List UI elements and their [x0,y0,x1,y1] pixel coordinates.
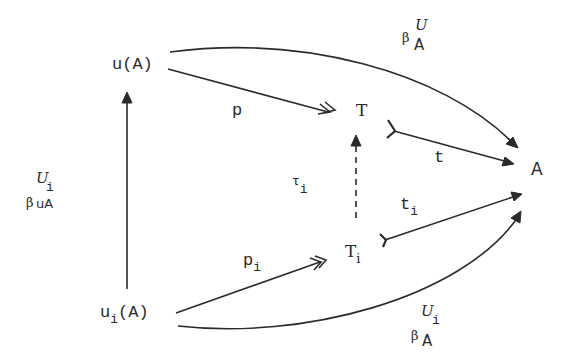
double-arrowhead-icon [318,102,335,114]
arrowhead-icon [122,92,132,103]
label-t: t [434,149,444,166]
label-beta-ui-A: β U i A [411,326,419,343]
label-tau-i: τi [292,174,308,191]
diagram-arrows [0,0,573,360]
label-tau-i-sub: i [300,182,308,197]
node-T-i-base: T [345,241,356,261]
label-beta-left: β U i uA [26,193,34,210]
node-T-i: Ti [345,243,361,260]
label-t-i: ti [400,196,418,213]
node-u-A: u(A) [112,56,153,73]
tail-icon [380,234,386,247]
label-p-i-base: p [243,251,253,270]
label-beta-left-base: β [26,195,34,210]
label-p-i: pi [243,252,261,269]
node-ui-A-base: u [100,303,110,322]
node-T-i-sub: i [356,251,360,266]
node-ui-A: ui(A) [100,304,149,321]
label-beta-left-supsub: i [46,181,54,194]
label-tau-i-base: τ [292,174,300,189]
label-beta-u-A: β U A [402,28,410,45]
arrowhead-icon [351,135,361,146]
commutative-diagram: u(A) ui(A) T Ti A p pi t ti τi β U A β U… [0,0,573,360]
label-beta-u-A-sup: U [415,18,428,33]
label-p: p [232,102,242,119]
arrow-beta-u-A [170,48,513,143]
label-t-i-sub: i [410,204,418,219]
arrowhead-icon [511,192,522,201]
label-beta-ui-A-sub: A [422,334,432,349]
tail-icon [387,120,395,138]
label-beta-u-A-base: β [402,30,410,45]
node-ui-A-rest: (A) [118,303,149,322]
label-beta-left-sub: uA [36,197,53,210]
label-beta-ui-A-base: β [411,328,419,343]
node-T: T [356,102,367,119]
label-t-i-base: t [400,195,410,214]
label-p-i-sub: i [253,260,261,275]
node-A: A [531,161,543,178]
arrowhead-icon [502,157,514,166]
arrowhead-icon [511,211,521,223]
label-beta-u-A-sub: A [414,38,424,53]
arrow-t [394,131,508,162]
arrow-beta-ui-A [178,217,518,329]
node-ui-A-sub: i [110,312,118,327]
arrow-p [168,69,328,112]
label-beta-ui-A-supsub: i [432,314,440,327]
